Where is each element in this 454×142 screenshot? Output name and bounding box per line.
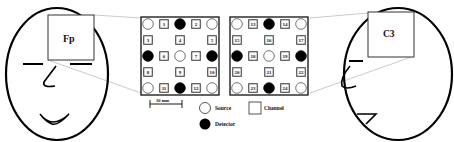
channel-number: 21: [267, 70, 273, 75]
channel-number: 17: [299, 38, 305, 43]
probe-grid-c3: 131415161718192021222324: [230, 17, 308, 95]
source-optode: [207, 83, 218, 94]
source-optode: [175, 51, 186, 62]
source-optode: [143, 83, 154, 94]
channel-number: 19: [283, 54, 289, 59]
detector-optode: [296, 51, 307, 62]
source-optode: [296, 83, 307, 94]
c3-label: C3: [383, 29, 395, 39]
channel-number: 15: [235, 38, 241, 43]
detector-optode: [264, 19, 275, 30]
channel-number: 24: [283, 86, 289, 91]
source-optode: [143, 19, 154, 30]
source-optode: [232, 19, 243, 30]
detector-optode: [232, 51, 243, 62]
scale-bar-label: 30 mm: [156, 98, 169, 103]
source-optode: [296, 19, 307, 30]
channel-number: 22: [299, 70, 305, 75]
channel-number: 10: [210, 70, 216, 75]
detector-optode: [143, 51, 154, 62]
channel-number: 23: [251, 86, 257, 91]
channel-number: 20: [235, 70, 241, 75]
detector-optode: [175, 83, 186, 94]
detector-legend-icon: [200, 119, 211, 130]
channel-number: 11: [162, 86, 167, 91]
source-optode: [232, 83, 243, 94]
channel-number: 16: [267, 38, 273, 43]
legend-source-label: Source: [215, 105, 232, 111]
probe-grid-fp: 123456789101112: [141, 17, 219, 95]
detector-optode: [175, 19, 186, 30]
nose: [44, 66, 56, 87]
channel-number: 13: [251, 22, 257, 27]
channel-number: 12: [194, 86, 200, 91]
fnirs-probe-diagram: Fp C3 123456789101112 131415161718192021…: [0, 0, 454, 142]
channel-legend-icon: [249, 102, 261, 114]
detector-optode: [264, 83, 275, 94]
left-head-front-view: [6, 8, 108, 140]
legend-detector-label: Detector: [215, 121, 236, 127]
channel-number: 14: [283, 22, 289, 27]
source-optode: [264, 51, 275, 62]
fp-label: Fp: [63, 33, 75, 44]
legend-channel-label: Channel: [264, 105, 284, 111]
mouth: [40, 114, 69, 124]
detector-optode: [207, 51, 218, 62]
legend: Source Channel Detector: [200, 102, 285, 130]
source-legend-icon: [200, 103, 211, 114]
channel-number: 18: [251, 54, 257, 59]
right-head-side-view: [342, 8, 452, 140]
source-optode: [207, 19, 218, 30]
